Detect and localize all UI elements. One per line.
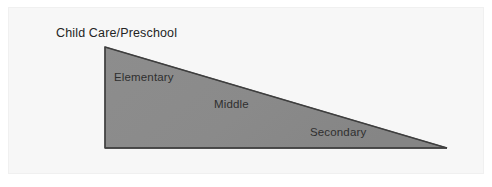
- label-middle: Middle: [214, 98, 249, 110]
- diagram-figure: Child Care/Preschool Elementary Middle S…: [0, 0, 492, 187]
- label-elementary: Elementary: [114, 71, 174, 83]
- label-child-care-preschool: Child Care/Preschool: [56, 26, 177, 40]
- label-secondary: Secondary: [310, 126, 366, 138]
